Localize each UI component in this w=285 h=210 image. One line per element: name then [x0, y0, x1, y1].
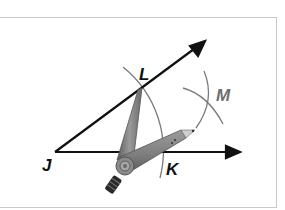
arc-M-vertical	[196, 71, 209, 128]
compass-hinge-center	[123, 164, 127, 168]
pencil-screw	[171, 142, 173, 144]
compass-icon	[104, 88, 195, 194]
label-L: L	[139, 65, 149, 84]
compass-handle	[104, 175, 122, 195]
pencil-screw-2	[174, 139, 176, 141]
pencil-lead	[192, 130, 194, 132]
arrowhead-JL-icon	[190, 41, 205, 56]
label-K: K	[166, 160, 180, 179]
angle-construction-diagram: J L K M	[0, 0, 285, 210]
label-M: M	[216, 86, 231, 105]
label-J: J	[42, 156, 52, 175]
rays	[55, 41, 240, 158]
arrowhead-JK-icon	[226, 146, 240, 158]
